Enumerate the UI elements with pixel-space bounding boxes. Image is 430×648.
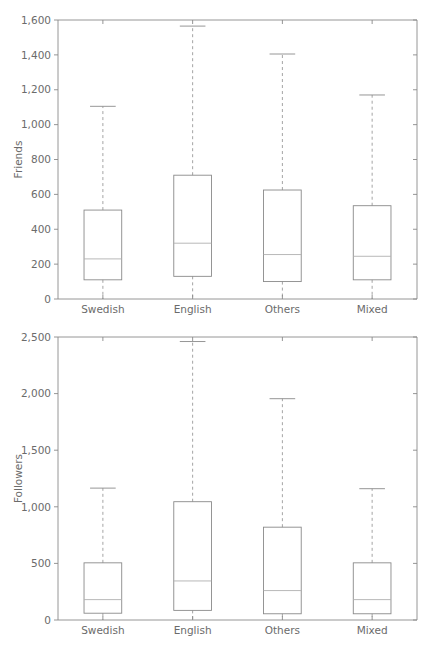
followers-xtick-label-mixed: Mixed [357,624,388,636]
friends-box-group [84,106,122,299]
chart-panel-friends: 02004006008001,0001,2001,4001,600Friends… [0,0,430,324]
box-iqr [174,175,212,276]
followers-box-group [264,399,302,620]
friends-xtick-label-swedish: Swedish [81,303,124,315]
box-iqr [264,527,302,614]
followers-xtick-label-others: Others [265,624,300,636]
chart-panel-followers: 05001,0001,5002,0002,500FollowersSwedish… [0,324,430,648]
followers-box-group [353,489,391,620]
friends-xtick-label-mixed: Mixed [357,303,388,315]
friends-box-group [264,54,302,299]
followers-ytick-label: 500 [31,557,51,569]
friends-ytick-label: 1,200 [21,83,51,95]
friends-plot-frame [58,20,417,299]
friends-box-group [353,95,391,299]
friends-xtick-label-others: Others [265,303,300,315]
followers-ytick-label: 2,000 [21,387,51,399]
friends-box-group [174,26,212,299]
friends-ytick-label: 800 [31,153,51,165]
friends-yaxis-title: Friends [12,141,24,179]
friends-ytick-label: 1,000 [21,118,51,130]
box-iqr [84,210,122,280]
friends-ytick-label: 200 [31,258,51,270]
friends-ytick-label: 0 [44,293,51,305]
box-iqr [264,190,302,282]
friends-ytick-label: 1,400 [21,49,51,61]
followers-plot-frame [58,337,417,620]
friends-ytick-label: 1,600 [21,14,51,26]
followers-xtick-label-swedish: Swedish [81,624,124,636]
box-iqr [174,502,212,611]
friends-ytick-label: 400 [31,223,51,235]
followers-boxplot-svg: 05001,0001,5002,0002,500FollowersSwedish… [0,324,430,648]
followers-box-group [174,342,212,620]
followers-ytick-label: 1,500 [21,444,51,456]
friends-xtick-label-english: English [174,303,212,315]
friends-boxplot-svg: 02004006008001,0001,2001,4001,600Friends… [0,0,430,324]
followers-ytick-label: 2,500 [21,331,51,343]
box-iqr [84,563,122,613]
followers-xtick-label-english: English [174,624,212,636]
box-iqr [353,206,391,280]
followers-yaxis-title: Followers [12,454,24,503]
followers-ytick-label: 0 [44,614,51,626]
boxplot-figure: 02004006008001,0001,2001,4001,600Friends… [0,0,430,648]
friends-ytick-label: 600 [31,188,51,200]
followers-ytick-label: 1,000 [21,501,51,513]
box-iqr [353,563,391,614]
followers-box-group [84,488,122,620]
